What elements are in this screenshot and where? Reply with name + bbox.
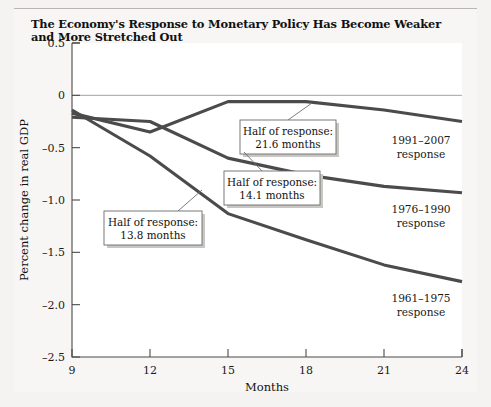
callout-line-1: Half of response: [227, 176, 317, 188]
y-axis-title: Percent change in real GDP [17, 119, 31, 281]
series-label-response: response [397, 148, 445, 160]
callout-line-1: Half of response: [243, 125, 333, 137]
y-tick-label: –1.5 [42, 246, 65, 259]
y-tick-label: –2.5 [42, 351, 65, 364]
x-tick-label: 24 [455, 364, 469, 377]
y-tick-label: 0 [58, 89, 65, 102]
figure-container: The Economy's Response to Monetary Polic… [0, 0, 491, 407]
x-tick-label: 9 [69, 364, 76, 377]
callout-line-2: 13.8 months [120, 229, 185, 241]
callout-line-2: 14.1 months [239, 189, 304, 201]
x-tick-label: 18 [299, 364, 313, 377]
x-tick-label: 15 [221, 364, 235, 377]
x-tick-label: 12 [143, 364, 157, 377]
y-tick-label: 0.5 [48, 37, 66, 50]
series-label-years: 1991–2007 [391, 134, 450, 146]
series-label-years: 1961–1975 [391, 292, 450, 304]
y-tick-label: –2.0 [42, 299, 65, 312]
x-axis-title: Months [245, 380, 289, 394]
y-tick-label: –1.0 [42, 194, 65, 207]
y-tick-label: –0.5 [42, 142, 65, 155]
x-tick-label: 21 [377, 364, 391, 377]
callout-line-1: Half of response: [108, 216, 198, 228]
callout-line-2: 21.6 months [255, 138, 320, 150]
line-chart: 0.50–0.5–1.0–1.5–2.0–2.5 91215182124 199… [0, 0, 491, 407]
series-label-response: response [397, 217, 445, 229]
series-label-response: response [397, 306, 445, 318]
series-label-years: 1976–1990 [391, 203, 450, 215]
